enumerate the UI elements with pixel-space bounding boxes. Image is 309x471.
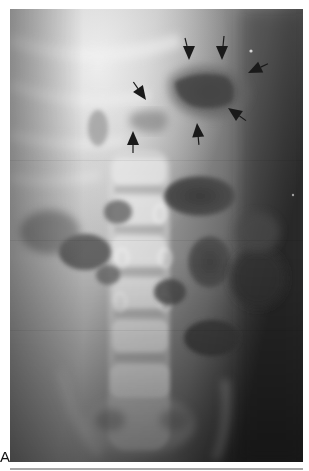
bottom-rule-divider <box>10 468 303 470</box>
xray-rendering <box>10 9 303 462</box>
artifact-speck <box>292 194 294 196</box>
panel-label: A <box>0 449 10 464</box>
xray-image <box>10 9 303 462</box>
figure-panel: A <box>0 0 309 471</box>
artifact-speck <box>249 49 252 52</box>
